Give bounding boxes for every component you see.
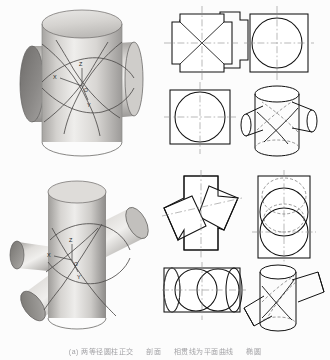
perpendicular-orthographic-views [162,2,330,168]
figure-caption: (a) 两等径圆柱正交 剖面 相贯线为平面曲线 椭圆 [0,347,330,356]
axis-label-x: X [53,74,57,80]
perpendicular-intersecting-cylinders-render: Z X Y O [2,2,162,168]
svg-text:X: X [53,74,57,80]
axis-label-y: Y [77,274,81,280]
axis-label-y: Y [87,102,91,108]
svg-text:Y: Y [87,102,91,108]
vertical-cylinder-oblique [48,181,106,329]
caption-segment-3: 椭圆 [246,348,261,355]
oblique-orthographic-views [162,168,330,340]
caption-segment-0: (a) 两等径圆柱正交 [69,348,134,355]
axis-label-origin: O [74,261,78,267]
technical-figure: Z X Y O [0,0,330,360]
axis-label-origin: O [84,87,88,93]
axonometric-view-perpendicular [241,86,317,156]
caption-segment-1: 剖面 [146,348,161,355]
axonometric-view-oblique [244,265,324,331]
caption-segment-2: 相贯线为平面曲线 [174,348,234,355]
oblique-intersecting-cylinders-render: Z X Y O [2,168,162,340]
axis-label-x: X [47,252,51,258]
svg-text:O: O [84,87,88,93]
